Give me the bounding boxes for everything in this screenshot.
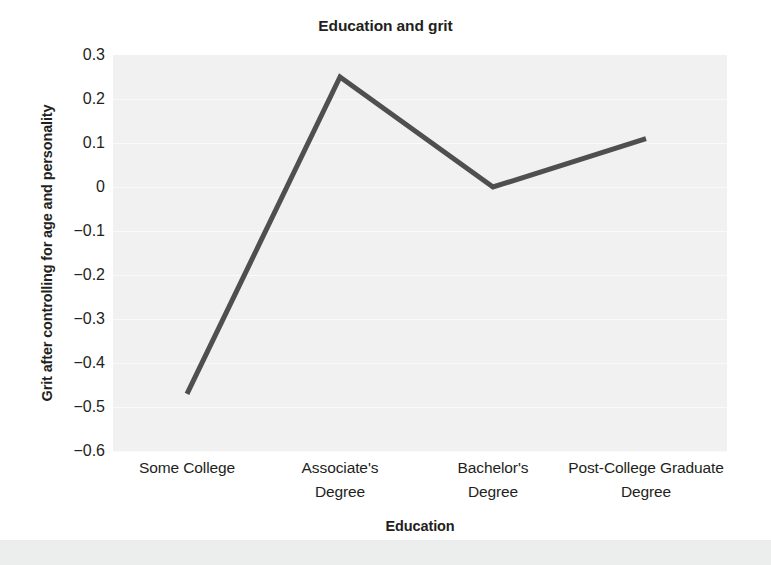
- x-tick-label-line1: Post-College Graduate: [568, 459, 724, 476]
- y-tick-label: −0.6: [5, 442, 105, 460]
- x-tick-label-line1: Some College: [139, 459, 235, 476]
- chart-title: Education and grit: [0, 17, 771, 35]
- y-tick-label: 0: [5, 178, 105, 196]
- series-polyline: [187, 77, 646, 394]
- line-series: [113, 55, 727, 451]
- x-axis-tick-labels: Some CollegeAssociate'sDegreeBachelor'sD…: [113, 456, 727, 512]
- y-tick-label: −0.4: [5, 354, 105, 372]
- y-tick-label: −0.1: [5, 222, 105, 240]
- y-tick-label: 0.2: [5, 90, 105, 108]
- y-axis-tick-labels: 0.30.20.10−0.1−0.2−0.3−0.4−0.5−0.6: [0, 55, 105, 451]
- y-tick-label: −0.3: [5, 310, 105, 328]
- y-tick-label: 0.1: [5, 134, 105, 152]
- plot-area: [113, 55, 727, 451]
- x-tick-label-line1: Bachelor's: [458, 459, 529, 476]
- x-tick-label-line1: Associate's: [302, 459, 379, 476]
- x-axis-title: Education: [113, 518, 727, 534]
- x-tick-label-line2: Degree: [551, 480, 741, 504]
- gridline: [113, 451, 727, 452]
- x-tick-label: Post-College GraduateDegree: [551, 456, 741, 504]
- y-tick-label: −0.2: [5, 266, 105, 284]
- scan-artifact-band: [0, 540, 771, 565]
- chart-figure: Education and grit Grit after controllin…: [0, 0, 771, 565]
- y-tick-label: 0.3: [5, 46, 105, 64]
- y-tick-label: −0.5: [5, 398, 105, 416]
